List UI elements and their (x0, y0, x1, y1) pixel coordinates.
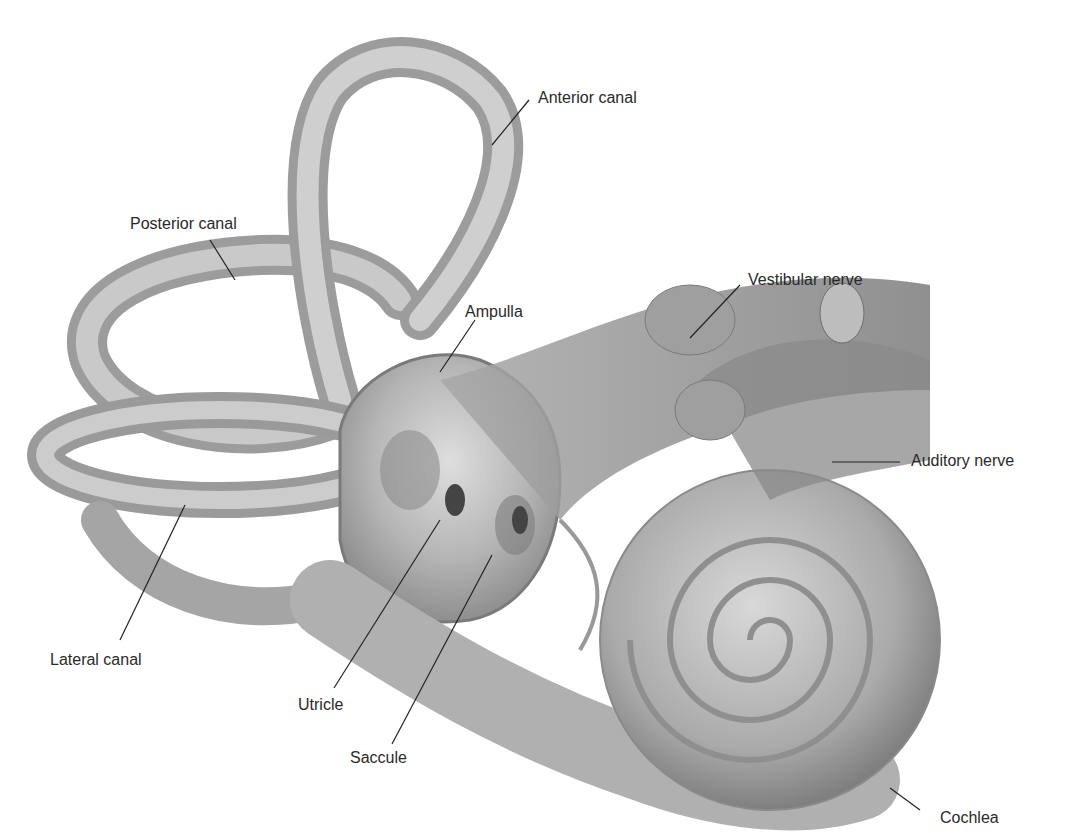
inner-ear-illustration (0, 0, 1077, 833)
label-cochlea: Cochlea (940, 810, 999, 826)
label-saccule: Saccule (350, 750, 407, 766)
anterior-canal-shape (308, 57, 503, 400)
label-ampulla: Ampulla (465, 304, 523, 320)
label-utricle: Utricle (298, 697, 343, 713)
label-lateral-canal: Lateral canal (50, 652, 142, 668)
label-anterior-canal: Anterior canal (538, 90, 637, 106)
label-vestibular-nerve: Vestibular nerve (748, 272, 863, 288)
label-posterior-canal: Posterior canal (130, 216, 237, 232)
cochlea-shape (600, 470, 940, 810)
inner-ear-diagram: Anterior canal Posterior canal Vestibula… (0, 0, 1077, 833)
label-auditory-nerve: Auditory nerve (911, 453, 1014, 469)
